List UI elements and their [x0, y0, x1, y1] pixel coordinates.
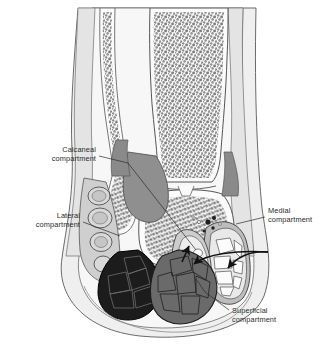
label-medial-line2: compartment [268, 215, 312, 224]
anatomical-figure: Calcaneal compartment Lateral compartmen… [0, 0, 333, 348]
label-lateral-line1: Lateral [57, 211, 81, 220]
deep-fascia-wedge-lateral [111, 140, 130, 176]
label-calcaneal-line2: compartment [52, 154, 96, 163]
label-calcaneal-line1: Calcaneal [62, 145, 96, 154]
label-superficial-line1: Superficial [232, 306, 268, 315]
label-lateral-line2: compartment [36, 220, 80, 229]
medial-fascicle [215, 271, 233, 284]
tibia [150, 8, 228, 182]
label-superficial-line2: compartment [232, 315, 276, 324]
label-medial-line1: Medial [268, 206, 291, 215]
coronal-section-illustration: Calcaneal compartment Lateral compartmen… [0, 0, 333, 348]
